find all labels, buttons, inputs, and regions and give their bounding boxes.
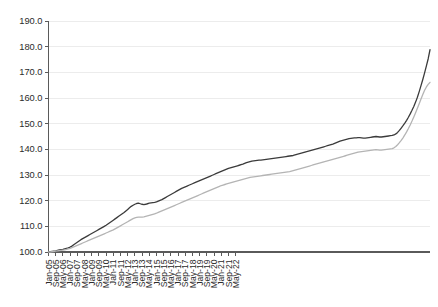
series-line-series-dark	[49, 50, 431, 252]
chart-canvas: 100.0110.0120.0130.0140.0150.0160.0170.0…	[0, 0, 438, 307]
y-tick-label: 140.0	[19, 144, 42, 154]
x-tick-label: May-22	[231, 259, 241, 288]
y-axis	[45, 21, 49, 252]
y-tick-label: 180.0	[19, 42, 42, 52]
y-tick-label: 130.0	[19, 170, 42, 180]
line-chart: 100.0110.0120.0130.0140.0150.0160.0170.0…	[0, 0, 438, 307]
y-tick-label: 190.0	[19, 16, 42, 26]
y-tick-label: 150.0	[19, 119, 42, 129]
y-tick-label: 120.0	[19, 196, 42, 206]
x-axis-tick-labels: Jan-05Sep-05May-06Jan-07Sep-07May-08Jan-…	[44, 259, 241, 288]
y-tick-label: 110.0	[20, 221, 43, 231]
y-tick-label: 170.0	[19, 67, 42, 77]
y-tick-label: 100.0	[19, 247, 42, 257]
y-tick-label: 160.0	[19, 93, 42, 103]
y-axis-tick-labels: 100.0110.0120.0130.0140.0150.0160.0170.0…	[19, 16, 42, 257]
x-axis	[49, 252, 431, 256]
data-series	[49, 50, 431, 252]
